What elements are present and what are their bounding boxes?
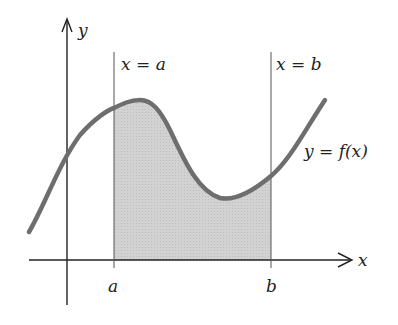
label-y-equals-f-of-x: y = f(x) [303,141,368,161]
label-x-equals-a: x = a [121,54,166,74]
x-axis-label: x [358,250,368,270]
shaded-area [114,100,271,260]
area-diagram: y x x = a x = b y = f(x) a b [0,0,398,325]
tick-label-b: b [266,276,277,296]
tick-label-a: a [108,276,118,296]
label-x-equals-b: x = b [276,54,322,74]
y-axis-label: y [77,20,88,40]
